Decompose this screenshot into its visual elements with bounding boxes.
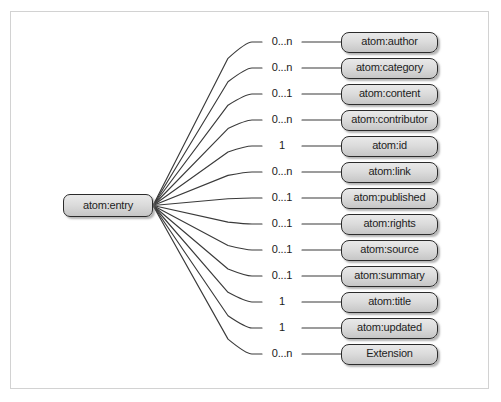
child-node-atom-updated[interactable]: atom:updated	[341, 318, 438, 339]
child-node-atom-link[interactable]: atom:link	[341, 162, 438, 183]
child-node-label: atom:summary	[354, 270, 424, 282]
cardinality-label-extension: 0...n	[262, 348, 302, 359]
cardinality-label-atom-content: 0...1	[262, 88, 302, 99]
child-node-label: atom:contributor	[351, 114, 427, 126]
cardinality-label-atom-rights: 0...1	[262, 218, 302, 229]
child-node-atom-published[interactable]: atom:published	[341, 188, 438, 209]
cardinality-label-atom-source: 0...1	[262, 244, 302, 255]
edge-line	[153, 206, 262, 251]
cardinality-label-atom-id: 1	[262, 140, 302, 151]
cardinality-label-atom-author: 0...n	[262, 36, 302, 47]
child-node-label: atom:author	[361, 36, 418, 48]
child-node-atom-rights[interactable]: atom:rights	[341, 214, 438, 235]
child-node-label: atom:content	[359, 88, 420, 100]
child-node-label: atom:rights	[363, 218, 415, 230]
child-node-atom-contributor[interactable]: atom:contributor	[341, 110, 438, 131]
child-node-atom-summary[interactable]: atom:summary	[341, 266, 438, 287]
edge-line	[153, 68, 262, 206]
child-node-label: atom:id	[372, 140, 407, 152]
child-node-label: atom:title	[368, 296, 411, 308]
cardinality-label-atom-link: 0...n	[262, 166, 302, 177]
cardinality-label-atom-summary: 0...1	[262, 270, 302, 281]
cardinality-label-atom-contributor: 0...n	[262, 114, 302, 125]
child-node-atom-id[interactable]: atom:id	[341, 136, 438, 157]
root-node-label: atom:entry	[83, 200, 133, 212]
edge-line	[153, 42, 262, 206]
child-node-atom-title[interactable]: atom:title	[341, 292, 438, 313]
child-node-label: atom:updated	[357, 322, 422, 334]
diagram-canvas: atom:entry atom:authoratom:categoryatom:…	[0, 0, 501, 402]
edge-line	[153, 206, 262, 277]
child-node-extension[interactable]: Extension	[341, 344, 438, 365]
child-node-label: atom:category	[356, 62, 423, 74]
child-node-label: Extension	[366, 348, 413, 360]
cardinality-label-atom-title: 1	[262, 296, 302, 307]
edge-line	[153, 206, 262, 355]
child-node-label: atom:source	[360, 244, 418, 256]
cardinality-label-atom-published: 0...1	[262, 192, 302, 203]
edge-line	[153, 146, 262, 206]
child-node-atom-source[interactable]: atom:source	[341, 240, 438, 261]
child-node-atom-category[interactable]: atom:category	[341, 58, 438, 79]
child-node-label: atom:published	[354, 192, 426, 204]
child-node-atom-content[interactable]: atom:content	[341, 84, 438, 105]
cardinality-label-atom-category: 0...n	[262, 62, 302, 73]
child-node-label: atom:link	[368, 166, 410, 178]
root-node-atom-entry[interactable]: atom:entry	[63, 194, 153, 217]
child-node-atom-author[interactable]: atom:author	[341, 32, 438, 53]
cardinality-label-atom-updated: 1	[262, 322, 302, 333]
